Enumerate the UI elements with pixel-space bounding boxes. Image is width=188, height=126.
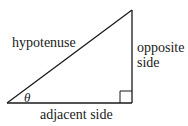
right-angle-marker	[120, 91, 132, 103]
hypotenuse-label: hypotenuse	[12, 35, 76, 50]
opposite-label-line1: opposite	[137, 40, 184, 55]
opposite-label-line2: side	[137, 55, 160, 70]
angle-theta-label: θ	[24, 90, 31, 105]
adjacent-label: adjacent side	[40, 107, 113, 122]
right-triangle-diagram: hypotenuse opposite side θ adjacent side	[0, 0, 188, 126]
